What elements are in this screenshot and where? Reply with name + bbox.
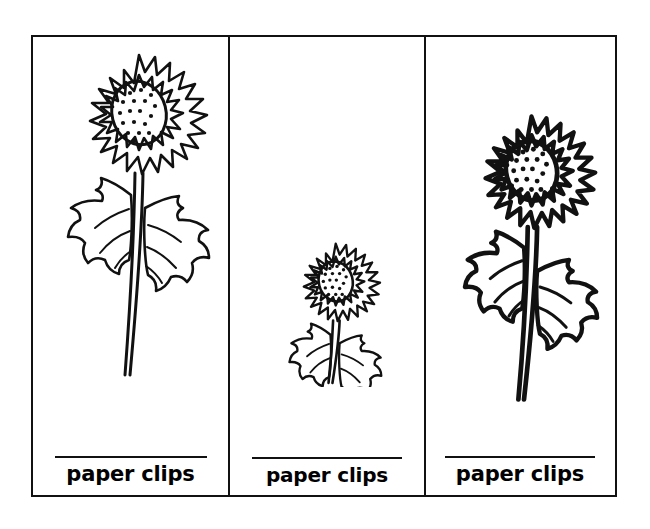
write-line-2[interactable]: [252, 457, 402, 459]
sunflower-flower-icon: [35, 45, 227, 385]
sunflower-flower-icon: [268, 237, 393, 387]
card-label-1: paper clips: [33, 464, 228, 485]
sunflower-flower-icon: [434, 107, 614, 407]
illustration-area-2: [230, 37, 424, 415]
label-block-2: paper clips: [230, 457, 424, 485]
write-line-1[interactable]: [55, 456, 207, 458]
label-block-3: paper clips: [426, 456, 614, 485]
write-line-3[interactable]: [445, 456, 595, 458]
measurement-card-3[interactable]: paper clips: [424, 37, 614, 495]
measurement-card-2[interactable]: paper clips: [228, 37, 424, 495]
illustration-area-1: [33, 37, 228, 415]
illustration-area-3: [426, 37, 614, 415]
three-card-strip: paper clips: [31, 35, 617, 497]
measurement-card-1[interactable]: paper clips: [33, 37, 228, 495]
card-label-2: paper clips: [230, 465, 424, 485]
card-label-3: paper clips: [426, 464, 614, 485]
label-block-1: paper clips: [33, 456, 228, 485]
worksheet-page: paper clips: [0, 0, 650, 529]
